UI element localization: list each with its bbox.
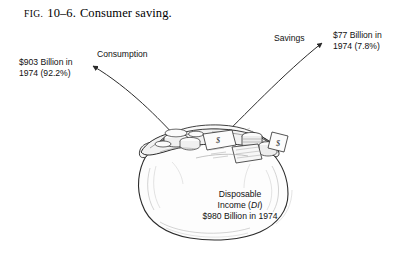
- consumption-value-line1: $903 Billion in: [19, 57, 73, 68]
- bag-left-fold: [139, 141, 168, 157]
- figure-container: FIG.10–6.Consumer saving.: [0, 0, 407, 257]
- savings-arrow: [219, 43, 322, 140]
- svg-text:$: $: [276, 139, 280, 148]
- di-line2-prefix: Income (: [218, 200, 251, 210]
- consumption-value-line2: 1974 (92.2%): [19, 68, 73, 79]
- dollar-bill-left: $: [203, 130, 236, 150]
- callout-consumption-value: $903 Billion in 1974 (92.2%): [19, 57, 73, 79]
- di-abbreviation: DI: [251, 200, 260, 210]
- savings-value-line1: $77 Billion in: [333, 30, 382, 41]
- callout-disposable-income: Disposable Income (DI) $980 Billion in 1…: [168, 189, 312, 223]
- coin-stack-group-right: [242, 132, 277, 156]
- bag-contents-hatching: [160, 128, 253, 158]
- bag-opening: [158, 125, 272, 145]
- figure-label-prefix: FIG.: [24, 9, 43, 19]
- svg-text:$: $: [216, 136, 220, 145]
- consumption-arrow: [93, 66, 176, 137]
- dollar-bill-folded: [232, 144, 262, 163]
- dollar-bill-right: $: [268, 132, 288, 152]
- figure-title: Consumer saving.: [80, 6, 172, 20]
- di-line3: $980 Billion in 1974: [168, 211, 312, 222]
- figure-caption: FIG.10–6.Consumer saving.: [24, 6, 172, 21]
- di-line1: Disposable: [168, 189, 312, 200]
- di-line2-suffix: ): [260, 200, 263, 210]
- coin-stack-group: [155, 129, 204, 150]
- bag-rim-shade-right: [212, 132, 270, 145]
- bag-mouth-rim: [141, 128, 279, 157]
- savings-value-line2: 1974 (7.8%): [333, 41, 382, 52]
- bag-rim-shade-left: [150, 133, 198, 148]
- di-line2: Income (DI): [168, 200, 312, 211]
- callout-savings-value: $77 Billion in 1974 (7.8%): [333, 30, 382, 52]
- money-bag-illustration: $ $: [139, 125, 292, 240]
- figure-number: 10–6.: [47, 6, 76, 20]
- callout-consumption-name: Consumption: [97, 49, 148, 60]
- callout-savings-name: Savings: [274, 33, 305, 44]
